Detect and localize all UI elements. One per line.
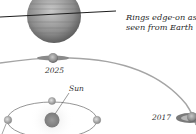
saturn-large	[0, 0, 116, 43]
caption-line-2: seen from Earth	[126, 22, 196, 32]
earth-right	[93, 116, 101, 124]
label-2025: 2025	[45, 66, 64, 75]
saturn-2025	[37, 53, 69, 63]
sun	[45, 113, 60, 128]
saturn-2017	[176, 112, 196, 123]
caption: Rings edge-on as seen from Earth	[126, 12, 196, 32]
caption-line-1: Rings edge-on as	[126, 12, 196, 22]
earth-left	[4, 116, 12, 124]
label-2017: 2017	[152, 113, 171, 122]
earth-top	[48, 97, 55, 104]
label-sun: Sun	[69, 84, 84, 93]
earth-orbit	[2, 93, 101, 134]
